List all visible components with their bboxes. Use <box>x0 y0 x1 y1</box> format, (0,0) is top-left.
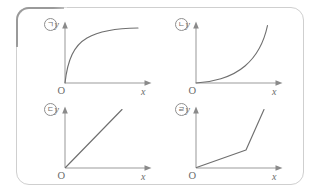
x-axis-arrow-icon <box>145 80 152 85</box>
x-axis-label: x <box>271 171 277 182</box>
x-axis-label: x <box>271 86 277 97</box>
panel-label-3: ㄷ <box>44 103 57 116</box>
panel-label-2: ㄴ <box>175 18 188 31</box>
y-axis-arrow-icon <box>62 107 68 114</box>
y-axis-arrow-icon <box>193 22 199 29</box>
graph-panel-4: y x O ㄹ <box>161 97 292 182</box>
curve-piecewise-linear <box>197 110 265 168</box>
origin-label: O <box>189 170 197 181</box>
x-axis-label: x <box>140 86 146 97</box>
curve-linear-through-origin <box>66 110 123 168</box>
x-axis-label: x <box>140 171 146 182</box>
curve-convex-increasing <box>196 26 268 84</box>
graph-panel-1: y x O ㄱ <box>30 12 161 97</box>
x-axis-arrow-icon <box>145 165 152 170</box>
graph-panel-2: y x O ㄴ <box>161 12 292 97</box>
x-axis-arrow-icon <box>276 80 283 85</box>
origin-label: O <box>189 85 197 96</box>
y-axis-arrow-icon <box>193 107 199 114</box>
y-axis-arrow-icon <box>62 22 68 29</box>
origin-label: O <box>58 170 66 181</box>
panel-label-4: ㄹ <box>175 103 188 116</box>
curve-concave-increasing <box>65 28 138 83</box>
origin-label: O <box>58 85 66 96</box>
graph-panel-3: y x O ㄷ <box>30 97 161 182</box>
panel-grid: y x O ㄱ y x O ㄴ <box>30 12 292 182</box>
panel-label-1: ㄱ <box>44 18 57 31</box>
x-axis-arrow-icon <box>276 165 283 170</box>
figure-root: y x O ㄱ y x O ㄴ <box>0 0 320 194</box>
